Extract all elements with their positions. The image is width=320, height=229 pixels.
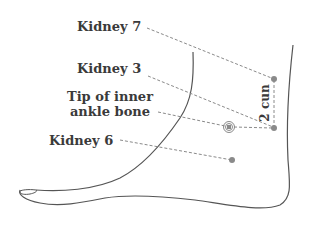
toe-outline [20,190,37,195]
label-kidney-7: Kidney 7 [77,19,141,34]
label-kidney-3: Kidney 3 [77,61,141,76]
kidney3-leader [148,76,273,127]
label-kidney-6: Kidney 6 [49,133,113,148]
ankle-bone-marker-icon [224,122,235,133]
heel-outline [20,45,293,208]
kidney7-point [271,76,277,82]
kidney6-point [229,157,235,163]
label-ankle-line-2: ankle bone [67,104,153,119]
ankle-leader [158,112,225,126]
kidney7-leader [147,28,274,79]
ankle-to-k3 [234,127,272,128]
label-ankle-bone: Tip of inner ankle bone [67,89,153,119]
label-ankle-line-1: Tip of inner [67,89,153,104]
kidney3-point [271,125,277,131]
label-2-cun: 2 cun [258,84,272,121]
kidney6-leader [120,140,232,160]
